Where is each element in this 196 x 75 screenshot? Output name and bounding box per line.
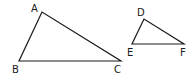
- vertex-label-d: D: [137, 7, 145, 18]
- similar-triangles-diagram: A B C D E F: [0, 0, 196, 75]
- triangle-abc: A B C: [12, 3, 121, 75]
- vertex-label-e: E: [127, 47, 133, 58]
- vertex-label-a: A: [31, 3, 38, 14]
- triangle-abc-outline: [19, 12, 121, 61]
- triangle-def-outline: [132, 19, 184, 44]
- triangle-def: D E F: [127, 7, 186, 58]
- vertex-label-b: B: [12, 64, 19, 75]
- vertex-label-f: F: [180, 47, 186, 58]
- vertex-label-c: C: [114, 64, 121, 75]
